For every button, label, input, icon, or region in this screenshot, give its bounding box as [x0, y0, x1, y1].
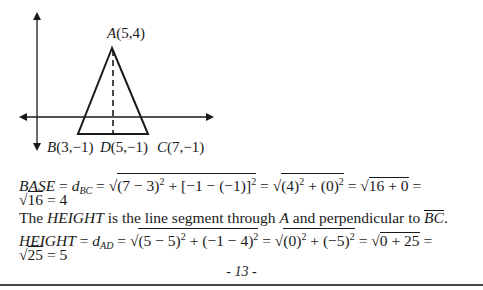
result-value: = 5	[43, 246, 67, 263]
equals: =	[92, 177, 109, 194]
radical-1: √(5 − 5)2 + (−1 − 4)2	[130, 228, 258, 250]
text: .	[444, 209, 448, 226]
text: The	[19, 209, 47, 226]
radicand-part: + (−1 − 4)	[186, 232, 254, 249]
equals: =	[76, 232, 93, 249]
height-result: √25 = 5	[19, 246, 67, 264]
base-equation: BASE = dBC = √(7 − 3)2 + [−1 − (−1)]2 = …	[19, 173, 421, 200]
equals: =	[420, 232, 433, 249]
equals: =	[409, 177, 422, 194]
label-a-coords: (5,4)	[116, 25, 145, 42]
base-result: √16 = 4	[19, 191, 67, 209]
distance-subscript: AD	[100, 240, 113, 251]
equals: =	[355, 232, 372, 249]
label-d-name: D	[99, 139, 111, 155]
radicand-part: 16 + 0	[369, 177, 409, 193]
arrow-right-icon	[206, 113, 214, 121]
radicand-part: 16	[28, 191, 44, 207]
triangle-figure: A(5,4) B(3,−1) D(5,−1) C(7,−1)	[0, 0, 240, 160]
point-a: A	[279, 209, 288, 226]
arrow-left-icon	[19, 113, 27, 121]
radicand-part: 25	[28, 246, 44, 262]
label-b-name: B	[47, 139, 56, 155]
radicand-part: (0)	[283, 232, 301, 249]
equals: =	[256, 177, 273, 194]
label-d-coords: (5,−1)	[111, 139, 148, 156]
radical-result: √25	[19, 246, 43, 264]
distance-subscript: BC	[79, 185, 92, 196]
radical-result: √16	[19, 191, 43, 209]
footer-rule	[0, 284, 483, 286]
radical-3: √0 + 25	[371, 232, 419, 250]
page-number: - 13 -	[0, 264, 483, 280]
svg-text:C(7,−1): C(7,−1)	[157, 139, 204, 156]
label-c-coords: (7,−1)	[167, 139, 204, 156]
result-value: = 4	[43, 191, 67, 208]
radicand-part: (7 − 3)	[117, 177, 159, 194]
radical-3: √16 + 0	[360, 177, 408, 195]
text: and perpendicular to	[289, 209, 424, 226]
radical-1: √(7 − 3)2 + [−1 − (−1)]2	[109, 173, 256, 195]
height-description: The HEIGHT is the line segment through A…	[19, 209, 448, 227]
radicand-part: (5 − 5)	[138, 232, 180, 249]
equals: =	[113, 232, 130, 249]
arrow-down-icon	[33, 143, 41, 151]
equals: =	[258, 232, 275, 249]
radical-2: √(4)2 + (0)2	[273, 173, 344, 195]
height-term: HEIGHT	[47, 209, 104, 226]
radicand-part: + [−1 − (−1)]	[165, 177, 252, 194]
radicand-part: + (−5)	[306, 232, 349, 249]
equals: =	[344, 177, 361, 194]
radicand-part: + (0)	[304, 177, 339, 194]
label-b-coords: (3,−1)	[56, 139, 93, 156]
svg-text:A(5,4): A(5,4)	[106, 25, 145, 42]
radicand-part: (4)	[281, 177, 299, 194]
arrow-up-icon	[33, 12, 41, 20]
svg-text:D(5,−1): D(5,−1)	[99, 139, 148, 156]
segment-bc: BC	[424, 210, 444, 225]
height-equation: HEIGHT = dAD = √(5 − 5)2 + (−1 − 4)2 = √…	[19, 228, 432, 255]
distance-symbol: d	[92, 232, 100, 249]
svg-text:B(3,−1): B(3,−1)	[47, 139, 93, 156]
radicand-part: 0 + 25	[380, 232, 420, 248]
radical-2: √(0)2 + (−5)2	[275, 228, 355, 250]
text: is the line segment through	[104, 209, 280, 226]
